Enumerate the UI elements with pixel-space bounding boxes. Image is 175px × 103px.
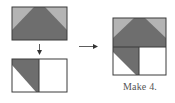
down-arrow-icon bbox=[37, 44, 42, 55]
white-square bbox=[39, 59, 67, 92]
combined-block bbox=[113, 18, 166, 75]
half-square-unit bbox=[12, 59, 67, 92]
flying-geese-unit bbox=[12, 7, 67, 40]
make-count-caption: Make 4. bbox=[113, 81, 167, 92]
right-arrow-icon bbox=[79, 44, 98, 49]
